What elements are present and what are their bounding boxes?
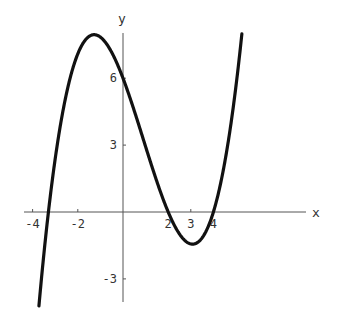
x-tick-label: -2 [71, 217, 85, 231]
function-curve [39, 34, 242, 306]
x-axis-label: x [312, 205, 320, 220]
function-plot: -4-2234-336 x y [0, 0, 341, 326]
y-tick-label: 6 [110, 71, 117, 85]
x-tick-label: 3 [187, 217, 194, 231]
y-tick-label: -3 [103, 272, 117, 286]
x-tick-label: -4 [25, 217, 39, 231]
y-axis-label: y [118, 11, 126, 26]
y-tick-label: 3 [110, 138, 117, 152]
